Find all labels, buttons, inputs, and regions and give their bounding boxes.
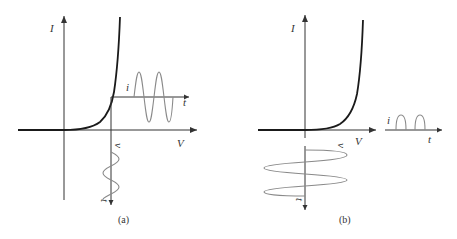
i-axis-label-a: I [49,22,55,34]
input-time-label-a: t [99,199,111,203]
output-amplitude-label-a: i [126,81,129,93]
output-amplitude-label-b: i [387,114,390,126]
output-time-label-b: t [428,133,432,145]
caption-b: (b) [339,214,351,226]
v-axis-label-b: V [355,135,363,147]
rectified-pulse-2-b [415,115,425,130]
output-time-label-a: t [183,96,187,108]
diode-characteristic-figure: I V i t v t (a) I V v t [0,0,457,239]
input-time-label-b: t [294,198,306,202]
panel-b: I V v t i t (b) [258,15,442,226]
iv-curve-b [258,20,363,130]
rectified-pulse-1-b [396,115,406,130]
iv-curve-a [18,17,120,130]
v-axis-label-a: V [177,137,185,149]
caption-a: (a) [118,214,129,226]
input-amplitude-label-b: v [336,143,348,148]
panel-a: I V i t v t (a) [18,16,197,226]
input-amplitude-label-a: v [113,143,125,148]
i-axis-label-b: I [290,22,296,34]
